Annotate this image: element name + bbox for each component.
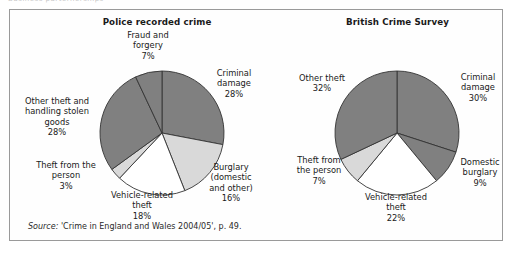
pie1-label-burglary: Burglary (domestic and other) 16% [190,162,272,203]
pie1-label-fraud-and-forgery: Fraud and forgery 7% [100,30,196,61]
source-note: Source: 'Crime in England and Wales 2004… [28,222,241,231]
pie2-label-theft-from-the-person: Theft from the person 7% [283,155,355,186]
chart-title-british-crime-survey: British Crime Survey [300,17,495,27]
source-note-text: 'Crime in England and Wales 2004/05', p.… [58,222,241,231]
pie2-label-other-theft: Other theft 32% [285,73,359,94]
chart-title-police-recorded-crime: Police recorded crime [72,17,242,27]
source-note-prefix: Source: [28,222,58,231]
pie1-label-theft-from-the-person: Theft from the person 3% [22,160,110,191]
pie2-label-criminal-damage: Criminal damage 30% [445,72,511,103]
cut-off-header-text: Business parternerships [8,0,104,3]
pie1-label-vehicle-related-theft: Vehicle-related theft 18% [90,190,194,221]
pie1-label-other-theft-and-handling-stolen-goods: Other theft and handling stolen goods 28… [8,96,106,137]
pie1-label-criminal-damage: Criminal damage 28% [196,68,272,99]
pie2-label-vehicle-related-theft: Vehicle-related theft 22% [332,192,460,223]
pie2-label-domestic-burglary: Domestic burglary 9% [449,157,511,188]
figure-container: Business parternerships Police recorded … [0,0,515,261]
